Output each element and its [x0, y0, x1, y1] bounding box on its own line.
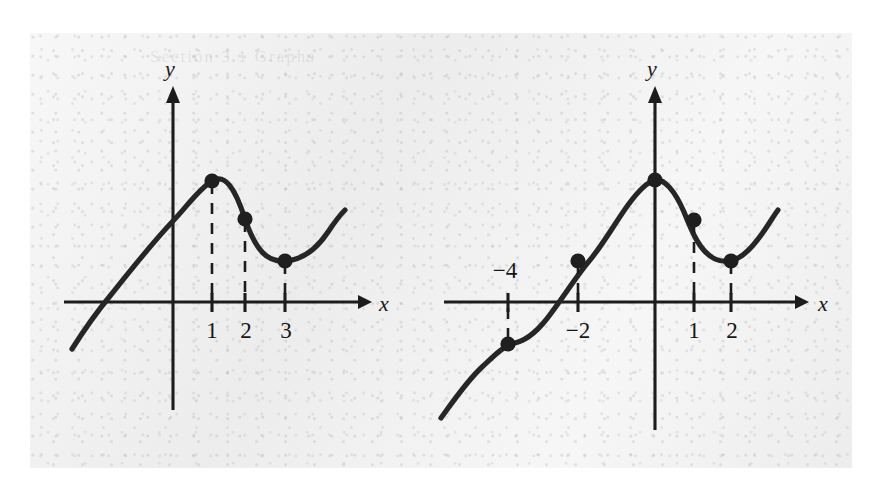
right-y-axis-arrowhead — [648, 86, 662, 103]
right-y-axis: y — [645, 56, 662, 430]
right-curve — [441, 180, 778, 418]
right-tick-label-minus4: −4 — [493, 258, 518, 283]
right-point-min — [723, 253, 738, 268]
right-x-axis-label: x — [817, 291, 828, 316]
right-graph-figure: x y — [0, 0, 884, 490]
right-tick-label-1: 1 — [688, 318, 700, 343]
right-tick-label-minus2: −2 — [566, 318, 590, 343]
right-point-1 — [686, 212, 701, 227]
right-point-max — [647, 172, 662, 187]
right-tick-label-2: 2 — [726, 318, 738, 343]
right-point-minus2 — [570, 253, 585, 268]
right-marked-points — [500, 172, 738, 351]
right-x-axis-arrowhead — [795, 295, 809, 309]
right-x-axis: x — [444, 291, 828, 316]
right-point-minus4 — [500, 336, 515, 351]
right-y-axis-label: y — [645, 56, 657, 81]
figure-root: Section 3.1 Graphs x y — [0, 0, 884, 490]
